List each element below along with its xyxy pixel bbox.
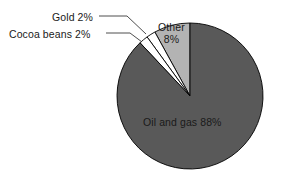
pie-label-other-name: Other [158,21,185,33]
pie-label-other: Other 8% [158,21,185,45]
pie-label-other-value: 8% [158,33,185,45]
pie-label-gold: Gold 2% [52,11,93,23]
pie-slice-oil-and-gas[interactable] [117,23,263,169]
leader-lines-group [99,16,146,42]
pie-label-cocoa-beans: Cocoa beans 2% [9,28,90,40]
pie-chart-figure: Gold 2% Cocoa beans 2% Other 8% Oil and … [0,0,283,189]
pie-slices-group [117,23,263,169]
leader-line-gold [99,16,146,34]
leader-line-cocoa [106,33,142,42]
pie-label-oil-and-gas: Oil and gas 88% [143,116,222,128]
